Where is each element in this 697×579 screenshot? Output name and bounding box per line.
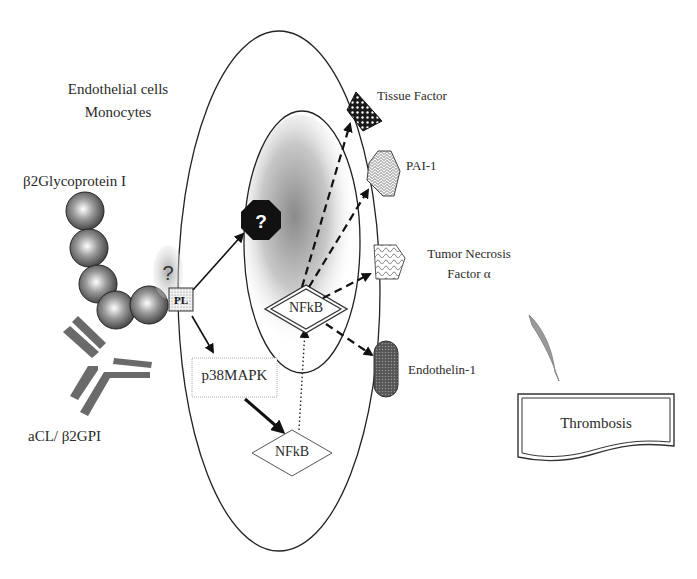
tnf-label-line2: Factor α <box>414 264 524 283</box>
unknown-question-mark: ? <box>255 211 267 232</box>
cell-type-label-line2: Monocytes <box>53 103 183 122</box>
endothelin1-label: Endothelin-1 <box>408 360 476 379</box>
pl-label: PL <box>174 294 188 306</box>
receptor-question-mark: ? <box>162 262 173 284</box>
arrow-p38-to-nfkb <box>245 399 283 432</box>
thrombus-icon <box>529 315 559 381</box>
tissue-factor-label: Tissue Factor <box>377 86 447 105</box>
p38mapk-label: p38MAPK <box>192 367 277 384</box>
nfkb-nucleus-label: NFkB <box>276 300 336 316</box>
cell-type-label-line1: Endothelial cells <box>53 80 183 99</box>
pai1-label: PAI-1 <box>406 156 437 175</box>
antibody-label: aCL/ β2GPI <box>28 427 101 446</box>
tnf-alpha-shape <box>374 245 405 279</box>
arrow-pl-to-unknown <box>193 234 243 290</box>
nfkb-cytoplasm-label: NFkB <box>262 444 322 460</box>
endothelin1-shape <box>374 341 398 397</box>
thrombosis-label: Thrombosis <box>518 414 674 433</box>
antibody-icon <box>63 316 152 416</box>
tnf-label-line1: Tumor Necrosis <box>414 244 524 263</box>
arrow-pl-to-p38 <box>192 316 213 352</box>
b2gpi-label: β2Glycoprotein I <box>23 172 126 191</box>
b2gpi-molecule <box>66 192 168 329</box>
